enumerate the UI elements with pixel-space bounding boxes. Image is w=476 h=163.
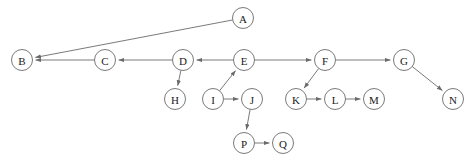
node-circle-h[interactable] bbox=[165, 89, 186, 110]
graph-node-i[interactable]: I bbox=[203, 89, 224, 110]
edge-a-to-b bbox=[35, 20, 232, 58]
node-circle-l[interactable] bbox=[325, 89, 346, 110]
graph-node-d[interactable]: D bbox=[173, 50, 194, 71]
node-circle-a[interactable] bbox=[233, 8, 254, 29]
node-circle-d[interactable] bbox=[173, 50, 194, 71]
graph-node-a[interactable]: A bbox=[233, 8, 254, 29]
graph-node-f[interactable]: F bbox=[315, 50, 336, 71]
graph-node-j[interactable]: J bbox=[242, 89, 263, 110]
node-circle-c[interactable] bbox=[95, 50, 116, 71]
node-circle-g[interactable] bbox=[394, 50, 415, 71]
node-circle-e[interactable] bbox=[234, 50, 255, 71]
graph-svg: ABCDEFGHIJKLMNPQ bbox=[0, 0, 476, 163]
graph-node-g[interactable]: G bbox=[394, 50, 415, 71]
node-circle-p[interactable] bbox=[234, 133, 255, 154]
edge-d-to-h bbox=[178, 70, 181, 85]
node-circle-q[interactable] bbox=[273, 133, 294, 154]
graph-node-n[interactable]: N bbox=[443, 89, 464, 110]
graph-node-m[interactable]: M bbox=[364, 89, 385, 110]
node-circle-k[interactable] bbox=[286, 89, 307, 110]
edge-j-to-p bbox=[246, 109, 250, 129]
graph-node-p[interactable]: P bbox=[234, 133, 255, 154]
edges-layer bbox=[35, 20, 442, 143]
node-circle-i[interactable] bbox=[203, 89, 224, 110]
graph-node-h[interactable]: H bbox=[165, 89, 186, 110]
node-circle-m[interactable] bbox=[364, 89, 385, 110]
edge-g-to-n bbox=[412, 67, 442, 91]
graph-diagram-canvas: ABCDEFGHIJKLMNPQ bbox=[0, 0, 476, 163]
graph-node-c[interactable]: C bbox=[95, 50, 116, 71]
node-circle-f[interactable] bbox=[315, 50, 336, 71]
graph-node-l[interactable]: L bbox=[325, 89, 346, 110]
graph-node-q[interactable]: Q bbox=[273, 133, 294, 154]
edge-i-to-e bbox=[220, 71, 236, 91]
edge-f-to-k bbox=[304, 68, 319, 88]
graph-node-e[interactable]: E bbox=[234, 50, 255, 71]
graph-node-b[interactable]: B bbox=[12, 50, 33, 71]
node-circle-n[interactable] bbox=[443, 89, 464, 110]
nodes-layer: ABCDEFGHIJKLMNPQ bbox=[12, 8, 464, 154]
node-circle-j[interactable] bbox=[242, 89, 263, 110]
graph-node-k[interactable]: K bbox=[286, 89, 307, 110]
node-circle-b[interactable] bbox=[12, 50, 33, 71]
